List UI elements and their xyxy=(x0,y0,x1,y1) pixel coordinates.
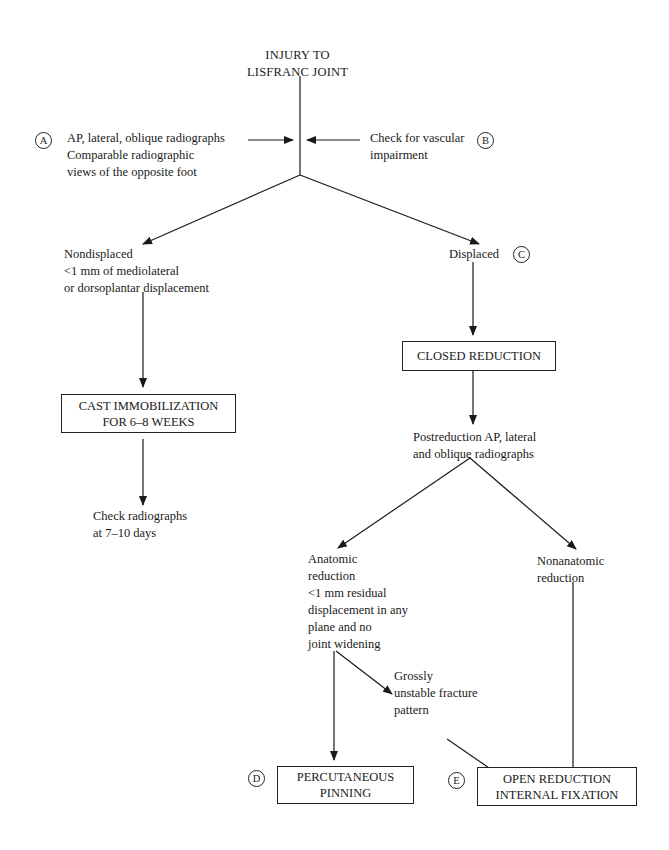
check-radiographs-node: Check radiographs at 7–10 days xyxy=(93,508,187,542)
postreduction-node: Postreduction AP, lateral and oblique ra… xyxy=(413,429,536,463)
nondisplaced-node: Nondisplaced <1 mm of mediolateral or do… xyxy=(64,246,209,297)
percutaneous-pinning-box: PERCUTANEOUS PINNING xyxy=(277,766,414,804)
marker-c: C xyxy=(513,246,530,263)
marker-a: A xyxy=(35,132,52,149)
grossly-unstable-node: Grossly unstable fracture pattern xyxy=(394,668,478,719)
marker-d: D xyxy=(248,770,265,787)
closed-reduction-box: CLOSED REDUCTION xyxy=(402,341,556,371)
marker-b: B xyxy=(477,132,494,149)
anatomic-reduction-node: Anatomic reduction <1 mm residual displa… xyxy=(308,551,408,653)
orif-box: OPEN REDUCTION INTERNAL FIXATION xyxy=(477,767,637,806)
marker-e: E xyxy=(448,772,465,789)
cast-immobilization-box: CAST IMMOBILIZATION FOR 6–8 WEEKS xyxy=(61,394,236,433)
nonanatomic-reduction-node: Nonanatomic reduction xyxy=(537,553,604,587)
note-b-vascular: Check for vascular impairment xyxy=(370,130,464,164)
note-a-radiographs: AP, lateral, oblique radiographs Compara… xyxy=(67,130,225,181)
displaced-node: Displaced xyxy=(449,246,499,263)
root-node: INJURY TO LISFRANC JOINT xyxy=(247,47,348,81)
